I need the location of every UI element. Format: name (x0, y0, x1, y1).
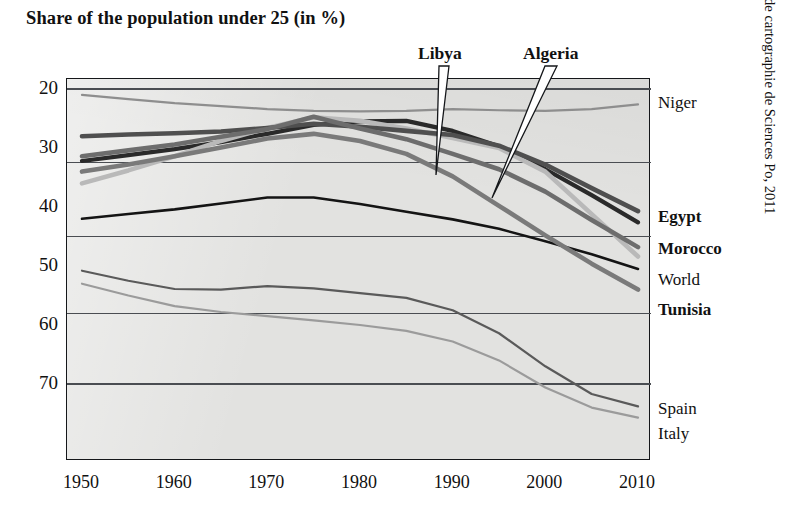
series-line-spain (82, 271, 638, 407)
credit-holder: Ceri and Atelier de cartographie de Scie… (766, 58, 790, 508)
series-label-italy: Italy (658, 425, 689, 442)
x-tick-label: 2000 (509, 472, 579, 493)
callout-label-algeria: Algeria (523, 45, 578, 63)
series-line-niger (82, 95, 638, 112)
series-label-tunisia: Tunisia (658, 301, 711, 318)
y-tick-label: 20 (10, 78, 58, 97)
series-line-italy (82, 284, 638, 418)
series-label-niger: Niger (658, 94, 697, 111)
series-lines (67, 79, 651, 461)
x-tick-label: 1960 (139, 472, 209, 493)
y-tick-label: 30 (10, 137, 58, 156)
x-tick-label: 2010 (602, 472, 672, 493)
series-label-egypt: Egypt (658, 208, 701, 225)
y-tick-label: 50 (10, 255, 58, 274)
plot-area (66, 78, 650, 460)
y-tick-label: 60 (10, 314, 58, 333)
series-line-tunisia (82, 134, 638, 290)
x-tick-label: 1990 (417, 472, 487, 493)
chart-page: Share of the population under 25 (in %) … (0, 0, 796, 529)
series-label-world: World (658, 271, 700, 288)
page-title: Share of the population under 25 (in %) (26, 8, 345, 29)
credit-text: Ceri and Atelier de cartographie de Scie… (761, 0, 778, 214)
x-tick-label: 1980 (324, 472, 394, 493)
series-label-morocco: Morocco (658, 240, 722, 257)
series-line-world (82, 198, 638, 269)
series-label-spain: Spain (658, 400, 697, 417)
y-tick-label: 40 (10, 196, 58, 215)
y-axis-labels: 706050403020 (4, 0, 58, 529)
series-line-algeria (82, 117, 638, 256)
callout-label-libya: Libya (418, 45, 462, 63)
x-tick-label: 1970 (231, 472, 301, 493)
x-tick-label: 1950 (46, 472, 116, 493)
y-tick-label: 70 (10, 373, 58, 392)
